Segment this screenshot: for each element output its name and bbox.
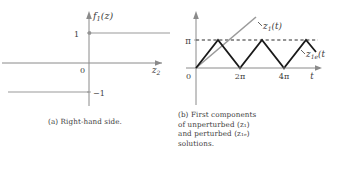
panel-a-ytick-1: 1 [74,30,79,39]
panel-b-x-axis [186,65,322,71]
panel-a-x-axis [2,60,162,66]
panel-b-xtick-4pi: 4π [279,72,289,81]
panel-a-caption-text: (a) Right-hand side. [48,117,122,126]
panel-b-caption-line-3: and perturbed (z₁ₑ) [178,129,328,139]
panel-b-xtick-2pi: 2π [235,72,245,81]
panel-a-ytick-minus1: −1 [93,89,105,98]
panel-b-y-axis [193,11,199,105]
panel-b-triangle-curve [196,40,316,68]
panel-b-x-axis-label: t [310,71,314,81]
panel-b-caption: (b) First components of unperturbed (z₁)… [178,110,328,148]
panel-b-chart: π 0 2π 4π t z1(t) z1e(t [170,0,338,110]
panel-b-series-label-ramp: z1(t) [262,21,282,32]
figure-container: f1(z) 1 0 −1 z2 (a) Right-hand side. [0,0,338,169]
panel-a-ytick-0: 0 [80,66,85,75]
panel-b-ytick-pi: π [185,36,191,46]
panel-a-positive-branch [88,31,170,35]
panel-b-xtick-0: 0 [186,72,191,81]
panel-a: f1(z) 1 0 −1 z2 (a) Right-hand side. [0,0,170,169]
panel-b: π 0 2π 4π t z1(t) z1e(t (b) First compon… [170,0,338,169]
panel-a-chart: f1(z) 1 0 −1 z2 [0,0,170,110]
panel-b-caption-line-2: of unperturbed (z₁) [178,120,328,130]
panel-a-x-axis-label: z2 [151,65,161,76]
panel-b-caption-line-1: (b) First components [178,110,328,120]
panel-a-caption: (a) Right-hand side. [8,117,162,127]
panel-a-y-axis-label: f1(z) [92,10,113,23]
panel-b-caption-line-4: solutions. [178,139,328,149]
